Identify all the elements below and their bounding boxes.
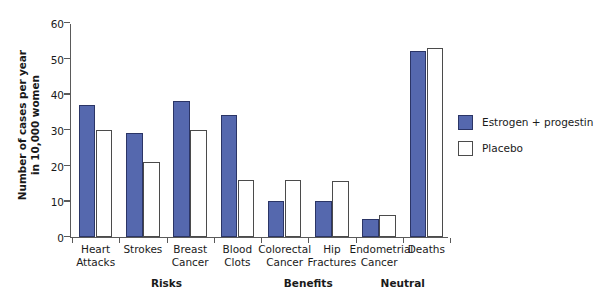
bar [221, 115, 238, 236]
legend-item[interactable]: Estrogen + progestin [458, 109, 598, 135]
bar [315, 201, 332, 237]
bar [238, 180, 255, 237]
y-axis-tick [64, 165, 70, 166]
legend-swatch [458, 115, 473, 130]
y-axis-tick-label: 0 [57, 233, 64, 244]
bar [79, 105, 96, 237]
group-annotation-labels: RisksBenefitsNeutral [70, 277, 448, 295]
group-annotation-label: Risks [117, 277, 217, 289]
bar [268, 201, 285, 237]
y-axis-tick-label: 20 [51, 161, 64, 172]
x-axis-line [70, 237, 448, 238]
y-axis-tick-label: 60 [51, 19, 64, 30]
legend-item[interactable]: Placebo [458, 135, 598, 161]
bar-chart: Number of cases per year in 10,000 women… [0, 0, 602, 303]
bar [96, 130, 113, 237]
y-axis-tick [64, 200, 70, 201]
y-axis-tick [64, 129, 70, 130]
group-annotation-label: Neutral [353, 277, 453, 289]
bar [143, 162, 160, 237]
y-axis-tick-label: 50 [51, 54, 64, 65]
legend-label: Estrogen + progestin [482, 116, 593, 128]
chart-legend: Estrogen + progestinPlacebo [458, 109, 598, 161]
x-axis-category-labels: Heart AttacksStrokesBreast CancerBlood C… [70, 243, 448, 275]
plot-area [70, 24, 448, 238]
y-axis-tick-label: 40 [51, 90, 64, 101]
group-annotation-label: Benefits [258, 277, 358, 289]
y-axis-title: Number of cases per year in 10,000 women [16, 20, 42, 230]
y-axis-tick-label: 30 [51, 126, 64, 137]
bar [126, 133, 143, 236]
bar [285, 180, 302, 237]
legend-label: Placebo [482, 142, 523, 154]
x-axis-category-label: Deaths [397, 243, 456, 256]
bar [190, 130, 207, 237]
bar [332, 181, 349, 236]
y-axis-tick-label: 10 [51, 197, 64, 208]
y-axis-tick-labels: 0102030405060 [42, 24, 64, 238]
bar [410, 51, 427, 236]
y-axis-line [70, 24, 71, 238]
legend-swatch [458, 141, 473, 156]
y-axis-tick [64, 93, 70, 94]
bar [379, 215, 396, 236]
bar [362, 219, 379, 237]
y-axis-tick [64, 22, 70, 23]
bar [173, 101, 190, 237]
y-axis-tick [64, 58, 70, 59]
y-axis-tick [64, 236, 70, 237]
bar [427, 48, 444, 237]
